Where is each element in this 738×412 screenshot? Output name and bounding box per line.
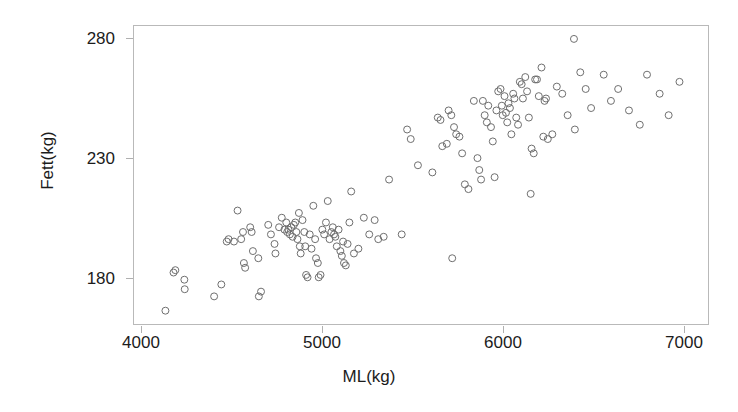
data-point	[588, 105, 595, 112]
data-point	[549, 131, 556, 138]
data-point	[519, 95, 526, 102]
data-point	[265, 221, 272, 228]
data-point	[337, 248, 344, 255]
data-point	[488, 124, 495, 131]
data-point	[247, 224, 254, 231]
x-axis-label: ML(kg)	[0, 368, 738, 385]
data-point	[240, 260, 247, 267]
x-tick-4000	[141, 326, 142, 333]
data-point	[211, 293, 218, 300]
data-point	[429, 169, 436, 176]
data-point	[239, 229, 246, 236]
data-point	[238, 236, 245, 243]
y-tick-280	[126, 38, 133, 39]
data-point	[449, 255, 456, 262]
data-point	[553, 83, 560, 90]
data-point	[404, 126, 411, 133]
data-point	[600, 71, 607, 78]
data-point	[570, 35, 577, 42]
y-tick-label-230: 230	[55, 150, 115, 167]
x-tick-7000	[684, 326, 685, 333]
data-point	[249, 248, 256, 255]
data-point	[515, 121, 522, 128]
data-point	[524, 88, 531, 95]
data-point-layer	[134, 26, 708, 324]
data-point	[607, 97, 614, 104]
data-point	[293, 229, 300, 236]
data-point	[162, 307, 169, 314]
data-point	[564, 112, 571, 119]
y-axis-label: Fett(kg)	[39, 81, 56, 241]
data-point	[407, 136, 414, 143]
data-point	[615, 86, 622, 93]
data-point	[348, 188, 355, 195]
y-tick-label-180: 180	[55, 270, 115, 287]
data-point	[366, 231, 373, 238]
data-point	[451, 124, 458, 131]
data-point	[414, 162, 421, 169]
data-point	[501, 93, 508, 100]
data-point	[360, 214, 367, 221]
data-point	[461, 181, 468, 188]
data-point	[522, 74, 529, 81]
y-tick-180	[126, 278, 133, 279]
data-point	[676, 78, 683, 85]
data-point	[386, 176, 393, 183]
data-point	[535, 93, 542, 100]
data-point	[481, 112, 488, 119]
data-point	[295, 209, 302, 216]
data-point	[543, 95, 550, 102]
data-point	[398, 231, 405, 238]
data-point	[582, 86, 589, 93]
data-point	[304, 274, 311, 281]
data-point	[491, 174, 498, 181]
data-point	[478, 176, 485, 183]
data-point	[299, 217, 306, 224]
x-tick-label-6000: 6000	[463, 334, 543, 351]
data-point	[292, 219, 299, 226]
data-point	[474, 155, 481, 162]
data-point	[333, 243, 340, 250]
data-point	[271, 240, 278, 247]
data-point	[644, 71, 651, 78]
data-point	[324, 198, 331, 205]
x-tick-label-5000: 5000	[282, 334, 362, 351]
x-tick-6000	[503, 326, 504, 333]
x-tick-5000	[322, 326, 323, 333]
data-point	[338, 252, 345, 259]
data-point	[465, 186, 472, 193]
data-point	[625, 107, 632, 114]
data-point	[314, 260, 321, 267]
data-point	[335, 226, 342, 233]
data-point	[577, 69, 584, 76]
x-tick-label-7000: 7000	[644, 334, 724, 351]
data-point	[485, 102, 492, 109]
data-point	[665, 112, 672, 119]
data-point	[234, 207, 241, 214]
data-point	[459, 150, 466, 157]
data-point	[319, 226, 326, 233]
data-point	[272, 250, 279, 257]
scatter-plot-figure: 280 230 180 4000 5000 6000 7000 Fett(kg)…	[0, 0, 738, 412]
x-tick-label-4000: 4000	[101, 334, 181, 351]
data-point	[297, 250, 304, 257]
data-point	[506, 105, 513, 112]
y-tick-230	[126, 158, 133, 159]
y-tick-label-280: 280	[55, 30, 115, 47]
data-point	[181, 286, 188, 293]
data-point	[476, 167, 483, 174]
data-point	[513, 114, 520, 121]
data-point	[559, 90, 566, 97]
data-point	[636, 121, 643, 128]
data-point	[255, 255, 262, 262]
data-point	[218, 281, 225, 288]
data-point	[571, 126, 578, 133]
data-point	[470, 97, 477, 104]
data-point	[313, 255, 320, 262]
data-point	[267, 231, 274, 238]
data-point	[656, 90, 663, 97]
data-point	[242, 264, 249, 271]
data-point	[248, 229, 255, 236]
data-point	[527, 190, 534, 197]
data-point	[322, 219, 329, 226]
